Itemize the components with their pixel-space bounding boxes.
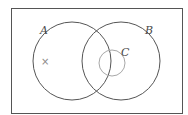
set-a-label: A [39,24,48,37]
set-b-label: B [144,24,153,37]
cross-marker-icon: × [41,56,49,67]
universal-set-rectangle [12,9,183,114]
venn-diagram: A B C × [0,0,188,115]
set-c-label: C [121,46,130,59]
